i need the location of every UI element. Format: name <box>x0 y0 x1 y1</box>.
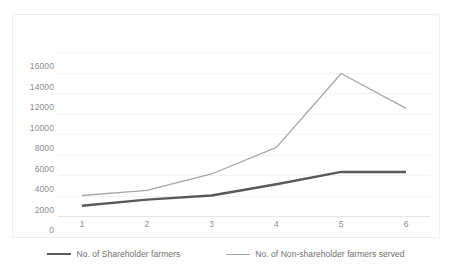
series-line <box>82 74 406 196</box>
y-axis-tick-label: 12000 <box>30 103 54 112</box>
chart-title <box>0 0 452 12</box>
legend-line-icon <box>47 253 71 255</box>
x-axis-tick-label: 2 <box>144 220 149 229</box>
y-axis-tick-label: 2000 <box>35 205 54 214</box>
y-axis-tick-label: 16000 <box>30 62 54 71</box>
y-axis-tick-label: 8000 <box>35 144 54 153</box>
x-axis-tick-label: 5 <box>339 220 344 229</box>
y-axis-tick-label: 14000 <box>30 82 54 91</box>
chart-container: 1600014000120001000080006000400020000 12… <box>0 0 452 276</box>
legend-item-label: No. of Shareholder farmers <box>76 249 180 259</box>
series-lines <box>58 14 430 238</box>
y-axis-tick-label: 10000 <box>30 123 54 132</box>
y-axis: 1600014000120001000080006000400020000 <box>12 14 58 238</box>
legend-item-non-shareholder[interactable]: No. of Non-shareholder farmers served <box>226 249 404 259</box>
x-axis-tick-label: 4 <box>274 220 279 229</box>
series-line <box>82 172 406 206</box>
legend-line-icon <box>226 254 250 255</box>
legend-item-shareholder[interactable]: No. of Shareholder farmers <box>47 249 180 259</box>
y-axis-tick-label: 0 <box>49 226 54 235</box>
y-axis-tick-label: 6000 <box>35 164 54 173</box>
chart-legend: No. of Shareholder farmers No. of Non-sh… <box>12 245 440 263</box>
plot-area <box>58 14 430 238</box>
x-axis-tick-label: 6 <box>404 220 409 229</box>
x-axis: 123456 <box>58 216 430 236</box>
x-axis-tick-label: 1 <box>80 220 85 229</box>
y-axis-tick-label: 4000 <box>35 185 54 194</box>
x-axis-tick-label: 3 <box>209 220 214 229</box>
legend-item-label: No. of Non-shareholder farmers served <box>255 249 404 259</box>
